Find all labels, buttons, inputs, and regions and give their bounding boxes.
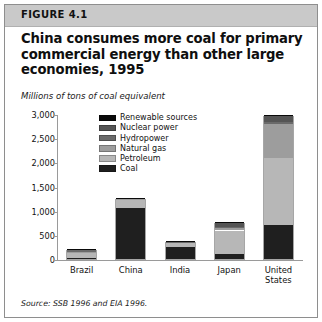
stacked-bar: [115, 199, 146, 260]
x-axis-label: Brazil: [57, 265, 106, 275]
stacked-bar: [165, 242, 196, 260]
legend-label: Nuclear power: [120, 123, 178, 132]
bar-japan: [214, 115, 245, 260]
bar-segment-nuclear-power: [215, 222, 244, 227]
bar-segment-petroleum: [116, 200, 145, 209]
legend-swatch-icon: [99, 135, 116, 142]
legend-item: Nuclear power: [99, 123, 197, 133]
bar-segment-natural-gas: [215, 228, 244, 231]
bar-united-states: [263, 115, 294, 260]
y-axis-unit-label: Millions of tons of coal equivalent: [21, 91, 165, 101]
bar-segment-renewable-sources: [264, 115, 293, 116]
y-tick-label: 500: [21, 231, 55, 241]
bar-segment-petroleum: [166, 243, 195, 247]
bar-segment-petroleum: [215, 231, 244, 254]
bar-segment-petroleum: [264, 158, 293, 226]
legend-swatch-icon: [99, 155, 116, 162]
y-tick-label: 1,500: [21, 183, 55, 193]
bar-segment-coal: [116, 208, 145, 259]
y-tick-label: 0: [21, 255, 55, 265]
stacked-bar: [66, 250, 97, 260]
bar-segment-coal: [166, 247, 195, 259]
source-note: Source: SSB 1996 and EIA 1996.: [21, 299, 147, 308]
chart-plot-area: 05001,0001,5002,0002,5003,000 BrazilChin…: [21, 109, 307, 295]
legend-swatch-icon: [99, 115, 116, 122]
y-tick-label: 2,500: [21, 134, 55, 144]
y-tick-mark: [54, 163, 57, 164]
bar-segment-coal: [67, 258, 96, 259]
x-axis-label: Japan: [205, 265, 254, 275]
y-tick-mark: [54, 139, 57, 140]
y-tick-mark: [54, 115, 57, 116]
y-tick-mark: [54, 236, 57, 237]
legend-label: Hydropower: [120, 134, 169, 143]
y-tick-label: 1,000: [21, 207, 55, 217]
figure-header-band: FIGURE 4.1: [5, 5, 317, 27]
legend-label: Natural gas: [120, 144, 166, 153]
y-tick-label: 3,000: [21, 110, 55, 120]
figure-number-label: FIGURE 4.1: [21, 9, 88, 20]
bar-segment-hydropower: [215, 227, 244, 228]
bar-segment-coal: [264, 225, 293, 259]
x-axis-line: [57, 260, 303, 261]
legend-swatch-icon: [99, 145, 116, 152]
bar-segment-hydropower: [67, 250, 96, 252]
legend-label: Renewable sources: [120, 113, 197, 122]
x-axis-label: United States: [254, 265, 303, 285]
legend-item: Renewable sources: [99, 113, 197, 123]
y-axis-line: [57, 115, 58, 260]
chart-legend: Renewable sourcesNuclear powerHydropower…: [99, 113, 197, 174]
y-tick-label: 2,000: [21, 158, 55, 168]
y-tick-mark: [54, 260, 57, 261]
bar-segment-petroleum: [67, 252, 96, 258]
stacked-bar: [263, 116, 294, 260]
legend-item: Natural gas: [99, 144, 197, 154]
legend-item: Hydropower: [99, 133, 197, 143]
bar-segment-natural-gas: [166, 242, 195, 243]
legend-item: Petroleum: [99, 154, 197, 164]
stacked-bar: [214, 223, 245, 260]
bar-brazil: [66, 115, 97, 260]
legend-item: Coal: [99, 164, 197, 174]
bar-segment-nuclear-power: [264, 116, 293, 122]
legend-swatch-icon: [99, 165, 116, 172]
legend-swatch-icon: [99, 125, 116, 132]
legend-label: Coal: [120, 164, 138, 173]
y-tick-mark: [54, 188, 57, 189]
bar-segment-hydropower: [116, 198, 145, 199]
bar-segment-natural-gas: [264, 124, 293, 158]
x-axis-label: China: [106, 265, 155, 275]
figure-box: FIGURE 4.1 China consumes more coal for …: [4, 4, 318, 318]
bar-segment-hydropower: [264, 122, 293, 123]
x-axis-label: India: [155, 265, 204, 275]
legend-label: Petroleum: [120, 154, 161, 163]
figure-title: China consumes more coal for primary com…: [21, 31, 303, 78]
bar-segment-coal: [215, 254, 244, 259]
y-tick-mark: [54, 212, 57, 213]
